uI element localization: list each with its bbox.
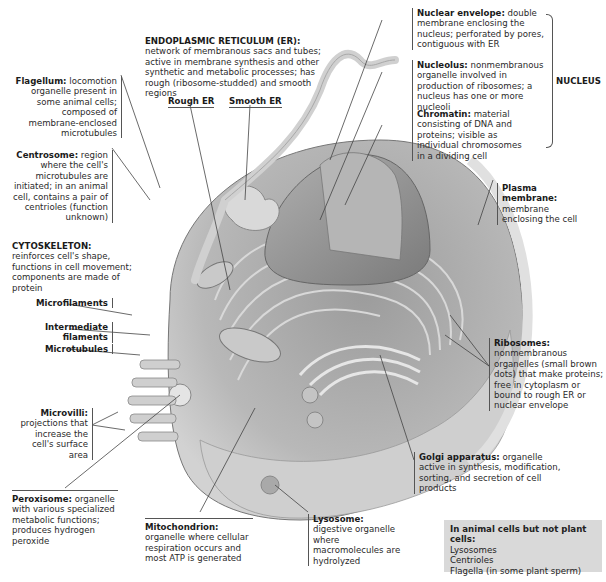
label-endoplasmic-reticulum: ENDOPLASMIC RETICULUM (ER): network of m… [145, 36, 323, 98]
label-chromatin: Chromatin: material consisting of DNA an… [412, 109, 523, 161]
label-smooth-er: Smooth ER [229, 96, 282, 108]
label-rough-er: Rough ER [168, 96, 214, 108]
label-microtubules: Microtubules [20, 344, 113, 354]
label-mitochondrion: Mitochondrion: organelle where cellular … [145, 518, 253, 564]
label-flagellum: Flagellum: locomotion organelle present … [12, 76, 122, 138]
label-cytoskeleton: CYTOSKELETON:reinforces cell's shape, fu… [12, 241, 132, 293]
animal-box-title: In animal cells but not plant cells: [450, 524, 596, 545]
label-lysosome: Lysosome: digestive organelle where macr… [308, 514, 403, 566]
animal-box-item: Centrioles [450, 555, 596, 565]
label-nucleolus: Nucleolus: nonmembranous organelle invol… [412, 60, 553, 112]
animal-only-box: In animal cells but not plant cells: Lys… [444, 520, 602, 572]
animal-box-item: Flagella (in some plant sperm) [450, 566, 596, 576]
nucleus-brace [546, 14, 553, 148]
label-microfilaments: Microfilaments [20, 298, 113, 308]
label-ribosomes: Ribosomes:nonmembranous organelles (smal… [489, 338, 606, 411]
label-microvilli: Microvilli: projections that increase th… [12, 408, 93, 460]
label-centrosome: Centrosome: region where the cell's micr… [10, 150, 113, 223]
label-nuclear-envelope: Nuclear envelope: double membrane enclos… [412, 8, 547, 50]
animal-box-item: Lysosomes [450, 545, 596, 555]
label-plasma-membrane: Plasma membrane:membrane enclosing the c… [497, 183, 592, 225]
label-golgi-apparatus: Golgi apparatus: organelle active in syn… [414, 452, 569, 494]
label-intermediate-filaments: Intermediate filaments [5, 322, 113, 343]
label-nucleus: NUCLEUS [556, 76, 601, 86]
label-peroxisome: Peroxisome: organelle with various speci… [12, 490, 118, 546]
